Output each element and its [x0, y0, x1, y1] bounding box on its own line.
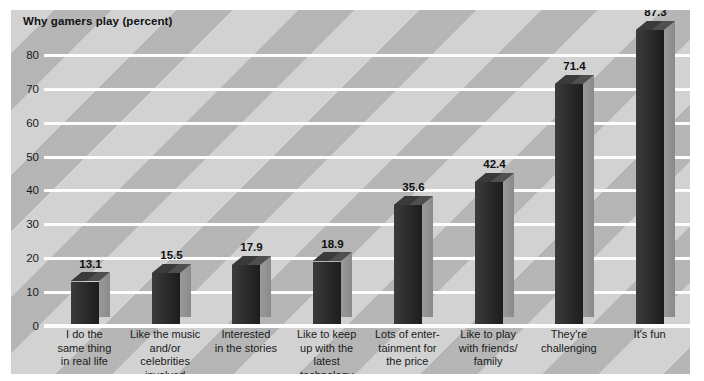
- y-axis-tick-label: 80: [26, 49, 39, 61]
- x-axis-category-label: I do thesame thingin real life: [44, 328, 125, 369]
- bar-side-face: [583, 75, 594, 317]
- bar-front-face: [475, 182, 503, 326]
- x-axis-baseline: [44, 324, 690, 326]
- x-axis-label-line: Like the music: [125, 328, 206, 342]
- chart-title: Why gamers play (percent): [23, 15, 172, 27]
- x-axis-label-line: in the stories: [206, 342, 287, 356]
- bar: [313, 262, 341, 326]
- x-axis-label-line: They're: [529, 328, 610, 342]
- y-axis-tick-label: 50: [26, 151, 39, 163]
- plot-area: 13.115.517.918.935.642.471.487.3: [44, 38, 690, 326]
- y-axis-tick-label: 60: [26, 117, 39, 129]
- bar-side-face: [341, 253, 352, 317]
- bar-value-label: 17.9: [226, 241, 277, 253]
- x-axis-label-line: involved: [125, 369, 206, 375]
- y-axis-tick-label: 10: [26, 286, 39, 298]
- bar-top-face: [636, 21, 676, 31]
- x-axis-label-line: and/or celebrities: [125, 342, 206, 369]
- bar-value-label: 87.3: [630, 10, 681, 18]
- x-axis-category-label: Like to keepup with thelatest technology: [286, 328, 367, 374]
- x-axis-label-line: with friends/: [448, 342, 529, 356]
- y-axis-tick-label: 20: [26, 252, 39, 264]
- x-axis-label-line: family: [448, 355, 529, 369]
- x-axis-label-line: Like to keep: [286, 328, 367, 342]
- x-axis-category-label: Lots of enter-tainment forthe price: [367, 328, 448, 369]
- bar: [152, 273, 180, 326]
- x-axis-label-line: Like to play: [448, 328, 529, 342]
- bar-side-face: [503, 173, 514, 317]
- x-axis-label-line: the price: [367, 355, 448, 369]
- bar-top-face: [313, 252, 353, 262]
- x-axis-label-line: latest technology: [286, 355, 367, 374]
- x-axis-label-line: same thing: [44, 342, 125, 356]
- y-axis-tick-label: 0: [33, 320, 39, 332]
- x-axis-label-line: It's fun: [609, 328, 690, 342]
- bar-top-face: [475, 173, 515, 183]
- y-axis-tick-labels: 01020304050607080: [11, 38, 39, 326]
- bar-value-label: 18.9: [307, 238, 358, 250]
- bar-value-label: 13.1: [65, 258, 116, 270]
- chart-screenshot: Why gamers play (percent) 01020304050607…: [0, 0, 704, 381]
- x-axis-category-label: Interestedin the stories: [206, 328, 287, 355]
- x-axis-label-line: Lots of enter-: [367, 328, 448, 342]
- bar-front-face: [394, 205, 422, 326]
- x-axis-category-label: Like to playwith friends/family: [448, 328, 529, 369]
- bar-value-label: 35.6: [388, 181, 439, 193]
- bar-value-label: 71.4: [549, 60, 600, 72]
- bar-top-face: [71, 272, 111, 282]
- bar: [394, 205, 422, 326]
- bar: [475, 182, 503, 326]
- x-axis-category-labels: I do thesame thingin real lifeLike the m…: [44, 328, 690, 374]
- bar-side-face: [664, 21, 675, 317]
- bar: [555, 84, 583, 326]
- x-axis-category-label: Like the musicand/or celebritiesinvolved: [125, 328, 206, 374]
- bar-side-face: [422, 196, 433, 317]
- bar-top-face: [394, 196, 434, 206]
- bar-front-face: [555, 84, 583, 326]
- gridline: [44, 54, 690, 57]
- bar: [232, 265, 260, 326]
- bar-top-face: [555, 75, 595, 85]
- x-axis-label-line: Interested: [206, 328, 287, 342]
- x-axis-label-line: challenging: [529, 342, 610, 356]
- x-axis-category-label: It's fun: [609, 328, 690, 342]
- bar-value-label: 42.4: [469, 158, 520, 170]
- bar-top-face: [152, 264, 192, 274]
- bar-top-face: [232, 256, 272, 266]
- x-axis-category-label: They'rechallenging: [529, 328, 610, 355]
- bar: [636, 30, 664, 326]
- x-axis-label-line: I do the: [44, 328, 125, 342]
- y-axis-tick-label: 40: [26, 184, 39, 196]
- chart-frame: Why gamers play (percent) 01020304050607…: [11, 10, 690, 374]
- bar-value-label: 15.5: [146, 249, 197, 261]
- x-axis-label-line: up with the: [286, 342, 367, 356]
- y-axis-tick-label: 30: [26, 218, 39, 230]
- y-axis-tick-label: 70: [26, 83, 39, 95]
- x-axis-label-line: tainment for: [367, 342, 448, 356]
- bar: [71, 282, 99, 326]
- x-axis-label-line: in real life: [44, 355, 125, 369]
- bar-front-face: [636, 30, 664, 326]
